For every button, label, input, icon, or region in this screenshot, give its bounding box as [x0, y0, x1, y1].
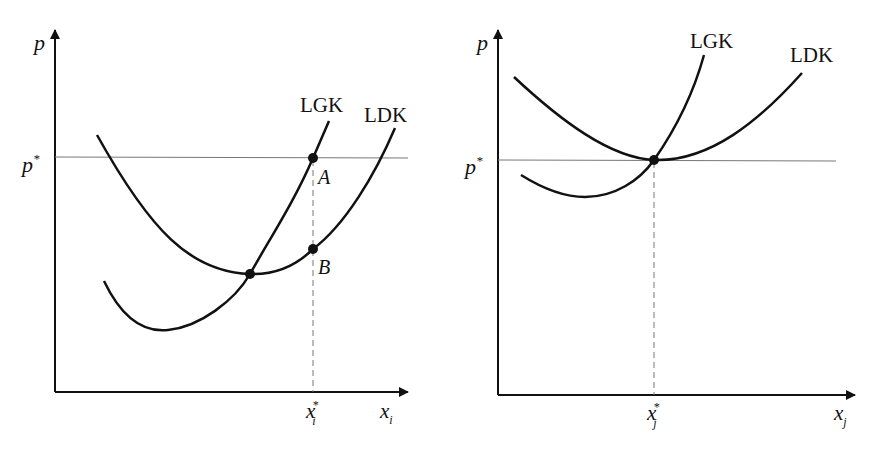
right-ldk-curve	[514, 73, 802, 160]
left-panel: p p* LGK LDK A B x*i xi	[20, 30, 408, 428]
right-panel: p p* LGK LDK x*j xj	[463, 29, 855, 430]
left-price-label: p*	[20, 151, 40, 177]
right-lgk-curve	[521, 55, 704, 197]
left-ldk-label: LDK	[364, 103, 407, 127]
right-quantity-label: x*j	[646, 400, 659, 430]
point-a	[308, 153, 318, 163]
right-x-axis-label: xj	[833, 401, 847, 429]
left-price-line	[55, 157, 408, 158]
right-price-label: p*	[463, 153, 483, 179]
left-y-axis-label: p	[32, 30, 45, 55]
right-tangent-point	[649, 155, 659, 165]
left-ldk-curve	[97, 128, 395, 274]
left-intersection-point	[245, 269, 255, 279]
diagram-canvas: p p* LGK LDK A B x*i xi p p* LGK LDK x*j…	[0, 0, 873, 450]
point-b-label: B	[318, 256, 330, 278]
right-y-axis-label: p	[475, 30, 488, 55]
left-quantity-label: x*i	[305, 398, 318, 428]
left-lgk-curve	[104, 121, 329, 330]
left-x-axis-label: xi	[379, 399, 393, 427]
point-b	[308, 244, 318, 254]
point-a-label: A	[316, 166, 331, 188]
left-lgk-label: LGK	[300, 93, 343, 117]
right-ldk-label: LDK	[790, 43, 833, 67]
right-lgk-label: LGK	[690, 29, 733, 53]
